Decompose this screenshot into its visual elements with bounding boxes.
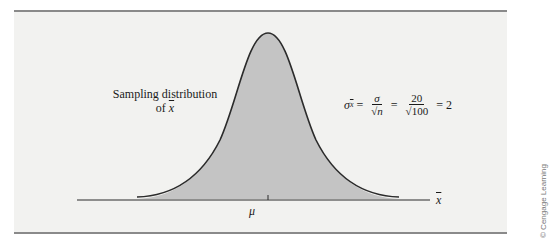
normal-curve-plot: [0, 0, 555, 245]
copyright-notice: © Cengage Learning: [539, 164, 548, 238]
standard-error-formula: σx = σ √n = 20 √100 = 2: [344, 92, 452, 117]
label-line-1: Sampling distribution: [100, 87, 230, 101]
sampling-distribution-label: Sampling distribution of x: [100, 87, 230, 115]
label-line-2: of x: [100, 101, 230, 115]
xbar-symbol: x: [169, 101, 174, 115]
xbar-subscript: x: [350, 98, 354, 112]
fraction-20-over-root-100: 20 √100: [404, 92, 431, 117]
fraction-sigma-over-root-n: σ √n: [369, 92, 385, 117]
mu-label: μ: [249, 204, 255, 218]
formula-result: 2: [446, 98, 452, 112]
x-axis-label: x: [436, 193, 441, 207]
